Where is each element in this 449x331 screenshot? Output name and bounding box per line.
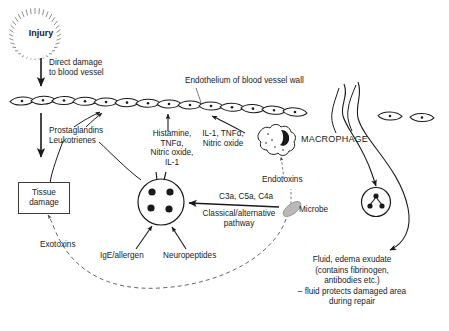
arrow-fluid-exudate (357, 82, 409, 250)
macrophage-icon (258, 124, 295, 155)
leader-endothelium (196, 88, 201, 103)
neutrophil-icon (362, 188, 391, 217)
tissue-damage-line2: damage (29, 198, 59, 208)
complement-label: C3a, C5a, C4a (219, 192, 273, 202)
tissue-damage-line1: Tissue (32, 188, 56, 198)
mast-cell-icon (138, 172, 184, 225)
endothelium-label: Endothelium of blood vessel wall (185, 76, 304, 86)
arrow-mastcell-to-prostaglandins (99, 142, 141, 180)
arrow-stimuli-to-mastcell (136, 226, 186, 249)
direct-damage-label: Direct damage to blood vessel (49, 58, 104, 77)
arrow-complement-to-mastcell (189, 203, 279, 207)
endothelial-cell-icon (10, 96, 434, 122)
arrow-prostaglandins-to-endothelium (74, 112, 102, 127)
prostaglandins-label: Prostaglandins Leukotrienes (49, 126, 103, 145)
endotoxins-label: Endotoxins (262, 175, 303, 185)
mediators-right-label: IL-1, TNFα, Nitric oxide (190, 129, 256, 148)
injury-label: Injury (19, 29, 63, 39)
arrow-tissuedamage-to-mediators (50, 141, 63, 183)
vessel-gap (332, 85, 356, 133)
exotoxins-label: Exotoxins (40, 240, 76, 250)
macrophage-label: MACROPHAGE (301, 135, 368, 145)
neuropeptides-label: Neuropeptides (163, 251, 216, 261)
fluid-exudate-label: Fluid, edema exudate (contains fibrinoge… (262, 255, 442, 308)
ige-allergen-label: IgE/allergen (100, 251, 144, 261)
microbe-label: Microbe (299, 205, 328, 215)
tissue-damage-box: Tissue damage (18, 182, 70, 214)
pathway-label: Classical/alternative pathway (196, 209, 282, 228)
inflammation-diagram: Injury Direct damage to blood vessel End… (0, 0, 449, 331)
